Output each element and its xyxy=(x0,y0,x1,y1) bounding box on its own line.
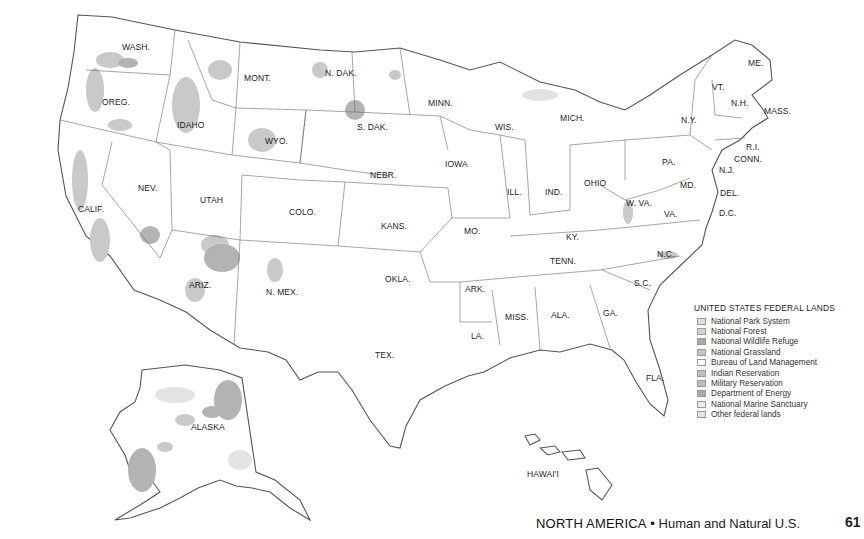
legend-item: Other federal lands xyxy=(694,410,864,420)
page-footer: NORTH AMERICA • Human and Natural U.S. xyxy=(536,516,800,531)
state-label-calif: CALIF. xyxy=(78,204,104,214)
state-label-nh: N.H. xyxy=(731,98,748,108)
state-label-ariz: ARIZ. xyxy=(189,280,211,290)
state-label-nj: N.J. xyxy=(719,165,735,175)
state-label-de: DEL. xyxy=(720,188,739,198)
state-label-me: ME. xyxy=(748,58,763,68)
legend-swatch xyxy=(697,318,706,325)
legend-label: Other federal lands xyxy=(711,410,781,419)
legend: UNITED STATES FEDERAL LANDS National Par… xyxy=(694,303,864,420)
state-label-mich: MICH. xyxy=(560,113,585,123)
state-label-nmex: N. MEX. xyxy=(266,287,298,297)
state-label-ndak: N. DAK. xyxy=(325,68,356,78)
state-label-pa: PA. xyxy=(662,157,675,167)
footer-subtitle: Human and Natural U.S. xyxy=(659,516,801,531)
alaska-outline xyxy=(110,365,310,520)
hawaii-islands xyxy=(525,434,612,500)
state-label-sdak: S. DAK. xyxy=(357,122,388,132)
legend-swatch xyxy=(697,349,706,356)
state-label-nev: NEV. xyxy=(138,183,157,193)
legend-swatch xyxy=(697,338,706,345)
state-label-hawaii: HAWAI'I xyxy=(527,469,559,479)
legend-item: Department of Energy xyxy=(694,389,864,399)
state-label-ri: R.I. xyxy=(746,142,760,152)
state-label-sc: S.C. xyxy=(634,278,651,288)
legend-swatch xyxy=(697,390,706,397)
footer-bullet: • xyxy=(650,516,655,531)
legend-item: National Marine Sanctuary xyxy=(694,399,864,409)
legend-items: National Park SystemNational ForestNatio… xyxy=(694,316,864,420)
legend-swatch xyxy=(697,411,706,418)
state-label-wash: WASH. xyxy=(122,42,150,52)
page-number: 61 xyxy=(845,514,861,530)
legend-item: National Grassland xyxy=(694,347,864,357)
legend-item: National Wildlife Refuge xyxy=(694,337,864,347)
legend-label: Indian Reservation xyxy=(711,369,779,378)
state-label-ark: ARK. xyxy=(465,284,485,294)
state-label-utah: UTAH xyxy=(200,195,223,205)
state-label-va: VA. xyxy=(664,209,677,219)
legend-label: National Forest xyxy=(711,327,767,336)
state-label-idaho: IDAHO xyxy=(177,120,205,130)
legend-label: Bureau of Land Management xyxy=(711,358,817,367)
state-label-nebr: NEBR. xyxy=(370,170,396,180)
state-label-colo: COLO. xyxy=(289,207,316,217)
state-label-kans: KANS. xyxy=(381,221,407,231)
legend-swatch xyxy=(697,328,706,335)
state-label-fla: FLA. xyxy=(646,373,664,383)
state-label-mass: MASS. xyxy=(764,106,791,116)
legend-swatch xyxy=(697,370,706,377)
legend-swatch xyxy=(697,401,706,408)
legend-item: Indian Reservation xyxy=(694,368,864,378)
state-label-miss: MISS. xyxy=(505,312,529,322)
state-label-alaska: ALASKA xyxy=(191,422,225,432)
legend-label: National Grassland xyxy=(711,348,781,357)
state-label-tenn: TENN. xyxy=(550,256,576,266)
state-label-wyo: WYO. xyxy=(265,136,288,146)
state-label-nc: N.C. xyxy=(657,249,674,259)
state-label-ky: KY. xyxy=(566,232,579,242)
state-label-oreg: OREG. xyxy=(102,97,130,107)
legend-label: Military Reservation xyxy=(711,379,783,388)
state-label-ga: GA. xyxy=(603,308,618,318)
state-label-ind: IND. xyxy=(545,187,562,197)
state-label-iowa: IOWA xyxy=(445,159,468,169)
state-label-la: LA. xyxy=(471,331,484,341)
legend-item: National Park System xyxy=(694,316,864,326)
legend-label: National Marine Sanctuary xyxy=(711,400,807,409)
state-label-wva: W. VA. xyxy=(626,198,652,208)
legend-swatch xyxy=(697,380,706,387)
legend-label: National Park System xyxy=(711,317,790,326)
state-label-md: MD. xyxy=(680,180,696,190)
state-label-minn: MINN. xyxy=(428,98,453,108)
state-label-dc: D.C. xyxy=(719,208,736,218)
state-label-ala: ALA. xyxy=(551,310,570,320)
state-label-tex: TEX. xyxy=(375,350,394,360)
state-label-mo: MO. xyxy=(464,226,480,236)
legend-item: Bureau of Land Management xyxy=(694,358,864,368)
state-label-wis: WIS. xyxy=(495,122,514,132)
state-label-ill: ILL. xyxy=(507,187,522,197)
state-label-okla: OKLA. xyxy=(385,274,411,284)
legend-item: Military Reservation xyxy=(694,378,864,388)
legend-swatch xyxy=(697,359,706,366)
state-label-ny: N.Y. xyxy=(681,115,697,125)
legend-label: Department of Energy xyxy=(711,389,791,398)
legend-title: UNITED STATES FEDERAL LANDS xyxy=(694,303,864,313)
state-label-conn: CONN. xyxy=(734,154,762,164)
legend-item: National Forest xyxy=(694,326,864,336)
legend-label: National Wildlife Refuge xyxy=(711,337,798,346)
state-label-ohio: OHIO xyxy=(584,178,606,188)
footer-region: NORTH AMERICA xyxy=(536,516,647,531)
state-label-vt: VT. xyxy=(712,82,725,92)
state-label-mont: MONT. xyxy=(244,73,271,83)
us-federal-lands-map: WASH.OREG.CALIF.IDAHONEV.MONT.WYO.UTAHCO… xyxy=(0,0,864,539)
